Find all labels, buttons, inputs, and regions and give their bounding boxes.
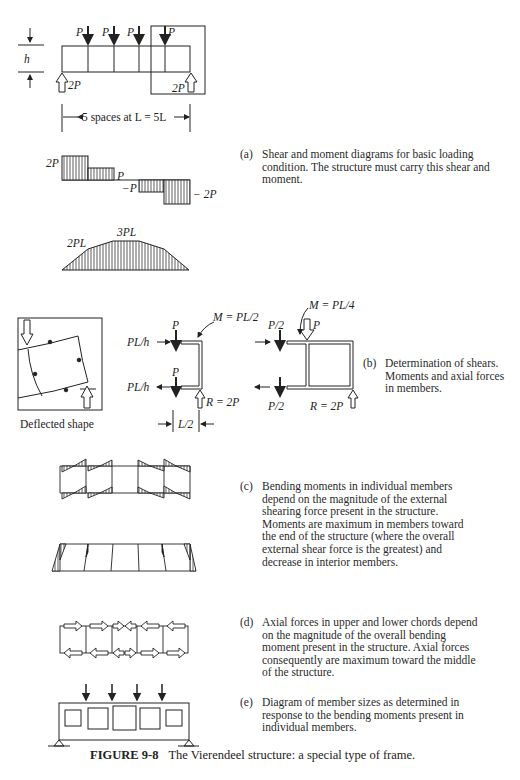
- caption-c-tag: (c): [240, 480, 253, 493]
- left-moment-label: M = PL/2: [212, 311, 259, 323]
- deflected-shape-diagram: [18, 318, 102, 410]
- shear-diagram: [62, 156, 190, 204]
- right-shear-top-label: P/2: [267, 319, 284, 331]
- caption-d-text: Axial forces in upper and lower chords d…: [262, 616, 480, 679]
- load-label-2: P: [101, 26, 109, 38]
- left-axial-top-label: PL/h: [126, 336, 150, 348]
- dimension-l-half: L/2: [177, 418, 194, 430]
- member-size-diagram: [48, 684, 199, 746]
- member-moment-diagram: [60, 459, 190, 499]
- caption-b-text: Determination of shears. Moments and axi…: [385, 357, 513, 395]
- caption-a-text: Shear and moment diagrams for basic load…: [262, 148, 500, 186]
- shear-label-neg-p: −P: [122, 182, 137, 194]
- shear-label-p: P: [116, 170, 124, 182]
- right-shear-bottom-label: P/2: [267, 400, 284, 412]
- vertical-moment-diagram: [52, 544, 196, 571]
- left-axial-bottom-label: PL/h: [126, 381, 150, 393]
- left-shear-bottom-label: P: [171, 366, 179, 378]
- caption-e-text: Diagram of member sizes as determined in…: [262, 696, 480, 734]
- shear-label-neg-2p: − 2P: [193, 188, 216, 200]
- left-reaction-label: R = 2P: [205, 396, 239, 408]
- caption-d: (d) Axial forces in upper and lower chor…: [240, 616, 480, 679]
- caption-b-tag: (b): [363, 357, 376, 370]
- caption-b: (b) Determination of shears. Moments and…: [363, 357, 513, 395]
- caption-e: (e) Diagram of member sizes as determine…: [240, 696, 480, 734]
- shear-label-2p: 2P: [46, 157, 59, 169]
- caption-a: (a) Shear and moment diagrams for basic …: [240, 148, 500, 186]
- span-label: 5 spaces at L = 5L: [82, 111, 166, 124]
- reaction-label-left: 2P: [68, 79, 81, 91]
- caption-c-text: Bending moments in individual members de…: [262, 480, 480, 568]
- deflected-shape-label: Deflected shape: [20, 418, 94, 431]
- figure-number: FIGURE 9-8: [90, 748, 158, 762]
- load-label-3: P: [126, 26, 134, 38]
- caption-d-tag: (d): [240, 616, 253, 629]
- figure-caption: FIGURE 9-8The Vierendeel structure: a sp…: [90, 748, 415, 763]
- caption-e-tag: (e): [240, 696, 253, 709]
- load-label-4: P: [167, 26, 175, 38]
- load-label-1: P: [75, 26, 83, 38]
- right-load-label: P: [312, 319, 320, 331]
- axial-force-diagram: [60, 621, 188, 658]
- figure-title: The Vierendeel structure: a special type…: [168, 748, 415, 762]
- right-reaction-label: R = 2P: [309, 400, 343, 412]
- reaction-label-right: 2P: [172, 82, 185, 94]
- caption-a-tag: (a): [240, 148, 253, 161]
- moment-label-2pl: 2PL: [67, 237, 86, 249]
- left-free-body: [157, 322, 214, 432]
- moment-label-3pl: 3PL: [116, 226, 136, 238]
- right-moment-label: M = PL/4: [308, 299, 355, 311]
- left-shear-top-label: P: [171, 319, 179, 331]
- caption-c: (c) Bending moments in individual member…: [240, 480, 480, 568]
- height-label: h: [24, 53, 30, 65]
